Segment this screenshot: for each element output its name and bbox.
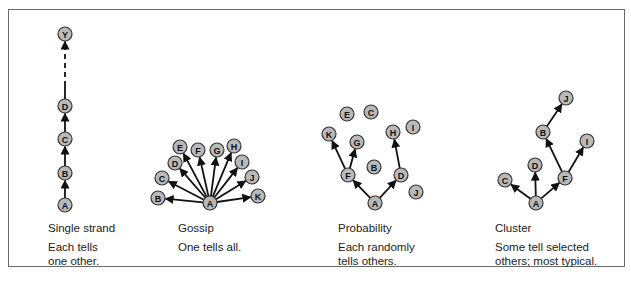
diagram-title: Single strand: [48, 221, 115, 235]
node-gossip-J: J: [245, 170, 259, 184]
svg-text:A: A: [62, 201, 69, 211]
arrow-gossip-A-B: [165, 199, 203, 203]
node-gossip-E: E: [173, 140, 187, 154]
svg-text:B: B: [540, 128, 547, 138]
diagram-description: Each tells one other.: [48, 240, 115, 268]
diagram-description: Each randomly tells others.: [338, 240, 415, 268]
svg-text:C: C: [368, 108, 375, 118]
diagram-title: Cluster: [495, 221, 597, 235]
arrow-probability-D-H: [394, 139, 399, 168]
node-probability-G: G: [350, 135, 364, 149]
svg-text:F: F: [345, 171, 351, 181]
svg-text:D: D: [398, 171, 405, 181]
node-cluster-A: A: [529, 196, 543, 210]
caption-gossip: Gossip One tells all.: [178, 221, 241, 254]
svg-text:B: B: [371, 163, 378, 173]
svg-text:A: A: [372, 199, 379, 209]
node-gossip-G: G: [210, 143, 224, 157]
caption-single-strand: Single strand Each tells one other.: [48, 221, 115, 268]
node-probability-A: A: [368, 196, 382, 210]
node-single-strand-D: D: [58, 99, 72, 113]
node-probability-I: I: [406, 120, 420, 134]
arrow-probability-A-F: [353, 180, 370, 198]
arrow-cluster-F-I: [569, 147, 584, 172]
diagram-title: Probability: [338, 221, 415, 235]
arrow-probability-F-K: [332, 141, 345, 169]
node-cluster-C: C: [498, 173, 512, 187]
svg-text:G: G: [213, 146, 220, 156]
node-gossip-C: C: [155, 171, 169, 185]
diagram-description: Some tell selected others; most typical.: [495, 240, 597, 268]
svg-text:A: A: [533, 199, 540, 209]
node-cluster-I: I: [580, 134, 594, 148]
node-single-strand-B: B: [58, 166, 72, 180]
svg-text:C: C: [62, 135, 69, 145]
svg-text:E: E: [177, 143, 183, 153]
caption-cluster: Cluster Some tell selected others; most …: [495, 221, 597, 268]
svg-text:F: F: [562, 174, 568, 184]
arrow-cluster-F-B: [546, 139, 562, 172]
node-probability-F: F: [341, 168, 355, 182]
svg-text:Y: Y: [62, 30, 68, 40]
node-gossip-B: B: [151, 191, 165, 205]
svg-text:C: C: [502, 176, 509, 186]
node-gossip-H: H: [227, 139, 241, 153]
node-single-strand-C: C: [58, 132, 72, 146]
node-probability-D: D: [394, 168, 408, 182]
node-gossip-K: K: [251, 189, 265, 203]
svg-text:I: I: [412, 123, 415, 133]
arrow-cluster-B-J: [547, 104, 562, 126]
svg-text:H: H: [390, 128, 397, 138]
node-cluster-F: F: [558, 171, 572, 185]
node-probability-C: C: [364, 105, 378, 119]
node-cluster-B: B: [536, 125, 550, 139]
svg-text:B: B: [155, 194, 162, 204]
diagram-description: One tells all.: [178, 240, 241, 254]
arrow-gossip-A-K: [217, 197, 251, 202]
svg-text:D: D: [532, 161, 539, 171]
arrow-cluster-A-C: [511, 184, 530, 198]
caption-probability: Probability Each randomly tells others.: [338, 221, 415, 268]
arrow-cluster-A-D: [535, 172, 536, 196]
node-gossip-I: I: [235, 155, 249, 169]
node-cluster-D: D: [528, 158, 542, 172]
node-probability-E: E: [340, 107, 354, 121]
node-gossip-A: A: [203, 196, 217, 210]
svg-text:I: I: [241, 158, 244, 168]
svg-text:J: J: [413, 188, 418, 198]
svg-text:D: D: [62, 102, 69, 112]
arrow-cluster-A-F: [541, 183, 559, 199]
svg-text:C: C: [159, 174, 166, 184]
node-probability-H: H: [386, 125, 400, 139]
node-probability-J: J: [409, 185, 423, 199]
diagram-title: Gossip: [178, 221, 241, 235]
arrow-probability-A-D: [380, 180, 396, 197]
node-single-strand-A: A: [58, 198, 72, 212]
svg-text:B: B: [62, 169, 69, 179]
svg-text:F: F: [195, 146, 201, 156]
svg-text:I: I: [586, 137, 589, 147]
node-cluster-J: J: [559, 91, 573, 105]
node-probability-B: B: [367, 160, 381, 174]
node-gossip-D: D: [168, 156, 182, 170]
svg-text:J: J: [563, 94, 568, 104]
svg-text:H: H: [231, 142, 238, 152]
svg-text:D: D: [172, 159, 179, 169]
svg-text:G: G: [353, 138, 360, 148]
svg-text:J: J: [249, 173, 254, 183]
svg-text:K: K: [255, 192, 262, 202]
svg-text:A: A: [207, 199, 214, 209]
svg-text:K: K: [326, 130, 333, 140]
arrow-probability-F-G: [350, 149, 355, 168]
node-probability-K: K: [322, 127, 336, 141]
node-single-strand-Y: Y: [58, 27, 72, 41]
node-gossip-F: F: [191, 143, 205, 157]
svg-text:E: E: [344, 110, 350, 120]
